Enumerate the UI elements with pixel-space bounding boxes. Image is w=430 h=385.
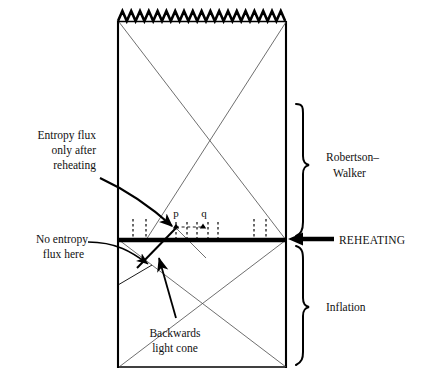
reheating-label: REHEATING (339, 234, 405, 246)
backwards-light-cone-arrow (159, 258, 176, 318)
spacetime-diagram: p q Entropy flux only after (0, 0, 430, 385)
figure-root: p q Entropy flux only after (0, 0, 430, 385)
light-cone-diagonals (119, 22, 286, 367)
robertson-walker-label-line1: Robertson– (326, 151, 379, 163)
spacetime-points (173, 223, 206, 228)
backwards-light-cone-left-ray (137, 228, 176, 268)
sawtooth-singularity-icon (118, 11, 285, 21)
point-p-label: p (173, 207, 179, 219)
no-entropy-flux-label-line1: No entropy (36, 233, 88, 246)
robertson-walker-label-line2: Walker (333, 167, 366, 179)
no-entropy-flux-pointer (118, 265, 152, 285)
backwards-light-cone-label-line2: light cone (152, 342, 198, 355)
point-p-marker (173, 223, 179, 228)
brace-inflation (296, 246, 309, 365)
entropy-flux-after-label-line1: Entropy flux (38, 129, 97, 142)
point-q-label: q (201, 207, 207, 219)
diagonal-upper-ascending (146, 22, 286, 240)
entropy-flux-after-label-line3: reheating (53, 159, 96, 172)
brace-robertson-walker (296, 104, 309, 236)
entropy-flux-after-arrow (100, 178, 172, 226)
entropy-flux-after-label-line2: only after (52, 144, 97, 157)
backwards-light-cone-left-ray-extension (176, 228, 206, 258)
point-q-marker (200, 223, 206, 228)
inflation-label: Inflation (326, 301, 366, 313)
reheating-pointer-arrow (288, 233, 334, 246)
no-entropy-flux-label-line2: flux here (43, 248, 84, 260)
backwards-light-cone-label-line1: Backwards (149, 327, 201, 339)
diagram-frame (118, 21, 286, 368)
